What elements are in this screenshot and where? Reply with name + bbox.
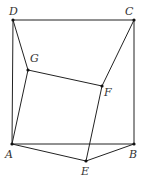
label-e: E — [80, 165, 89, 178]
segment-ag — [12, 70, 28, 144]
segment-fe — [86, 86, 102, 161]
label-g: G — [30, 52, 39, 65]
point-a — [10, 142, 13, 145]
point-d — [11, 18, 14, 21]
label-f: F — [103, 86, 112, 99]
segment-ae — [12, 144, 86, 161]
label-b: B — [128, 148, 137, 161]
points — [10, 18, 135, 162]
labels: A B C D E F G — [4, 5, 137, 178]
point-c — [132, 18, 135, 21]
segment-eb — [86, 144, 134, 161]
label-a: A — [4, 148, 13, 161]
point-e — [84, 159, 87, 162]
segment-ad — [12, 20, 13, 144]
segments — [12, 20, 134, 161]
segment-dg — [13, 20, 28, 70]
point-b — [132, 142, 135, 145]
segment-gf — [28, 70, 102, 86]
label-c: C — [125, 5, 134, 18]
label-d: D — [8, 5, 18, 18]
point-g — [26, 68, 29, 71]
segment-cf — [102, 20, 134, 86]
geometry-figure: A B C D E F G — [0, 0, 141, 194]
